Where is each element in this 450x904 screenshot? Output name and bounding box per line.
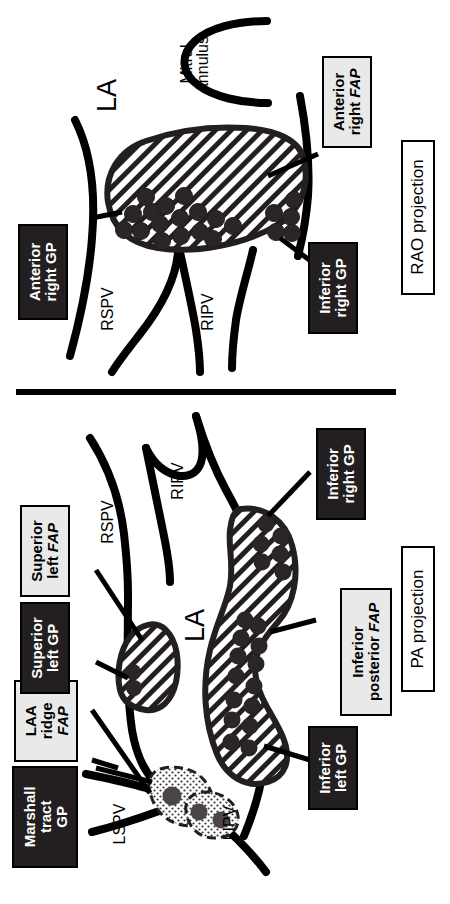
pa-la-label: LA [176,598,216,652]
pa-inferior-left-gp-box[interactable]: Inferior left GP [308,726,358,810]
pa-inferior-right-gp-box[interactable]: Inferior right GP [316,428,366,520]
rao-projection-legend: RAO projection [401,140,435,295]
pa-ripv-label: RIPV [166,446,190,516]
pa-projection-legend: PA projection [401,546,435,692]
rao-mitral-annulus-label: Mitral annulus [172,16,218,112]
pa-superior-left-fap-box[interactable]: Superior left FAP [20,505,70,597]
pa-inf-right-gp-leader [268,472,310,516]
pa-marshall-gp-leader [92,760,118,768]
pa-superior-left-gp-box[interactable]: Superior left GP [20,602,70,694]
rao-rspv-branch [112,252,178,372]
pa-marshall-tract-gp-box[interactable]: Marshall tract GP [12,766,78,868]
rao-inferior-right-gp-box[interactable]: Inferior right GP [308,242,358,334]
rao-anterior-right-gp-box[interactable]: Anterior right GP [18,224,68,320]
pa-superior-left-gp-region [118,624,177,710]
pa-inferior-posterior-fap-box[interactable]: Inferior posterior FAP [340,588,392,716]
pa-lipv-label: LIPV [218,788,242,858]
rao-ripv-label: RIPV [196,278,220,346]
rao-rspv-label: RSPV [96,272,120,346]
pa-lspv-label: LSPV [108,788,132,860]
pa-ripv-vessel [196,416,242,524]
rao-rspv-vessel [70,120,93,356]
pa-rspv-label: RSPV [96,486,120,558]
rao-ripv-vessel [232,250,253,368]
pa-sup-left-fap-leader [96,570,142,640]
rao-anterior-right-fap-box[interactable]: Anterior right FAP [322,56,372,148]
figure-canvas: LA Mitral annulus RSPV RIPV Anterior rig… [0,0,450,904]
rao-la-label: LA [88,68,128,122]
